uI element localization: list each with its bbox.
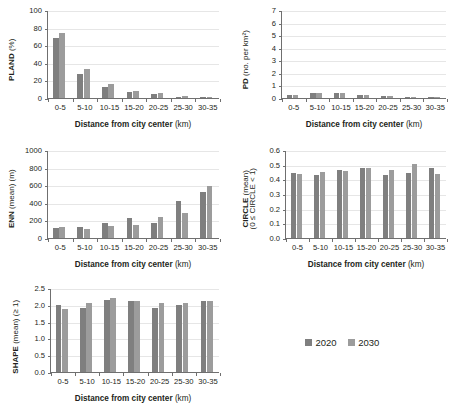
x-tick-label-25-30: 25-30 — [400, 104, 424, 112]
x-tick-label-30-35: 30-35 — [195, 104, 220, 112]
gridline — [282, 49, 446, 50]
x-tick-mark — [122, 239, 123, 242]
x-tick-mark — [146, 239, 147, 242]
bar-shape-0-5-2030 — [62, 309, 68, 372]
x-tick-mark — [172, 373, 173, 376]
x-tick-mark — [353, 99, 354, 102]
bar-circle-5-10-2030 — [320, 172, 325, 238]
x-tick-label-15-20: 15-20 — [353, 104, 377, 112]
legend-label-2030: 2030 — [358, 338, 379, 348]
pd-x-axis-label: Distance from city center (km) — [274, 120, 454, 129]
y-tick-label: 0 — [14, 235, 42, 243]
y-tick-label: 0.1 — [252, 220, 280, 228]
y-tick-label: 0.5 — [252, 162, 280, 170]
bar-enn-15-20-2020 — [127, 218, 133, 238]
pland-x-axis-label-unit: (km) — [175, 120, 191, 129]
y-tick-label: 1 — [248, 82, 276, 90]
x-tick-label-10-15: 10-15 — [99, 378, 123, 386]
gridline — [48, 221, 219, 222]
pd-x-axis-label-unit: (km) — [406, 120, 422, 129]
gridline — [48, 11, 219, 12]
y-tick-mark — [283, 224, 286, 225]
bar-pland-25-30-2030 — [182, 96, 188, 98]
bar-shape-10-15-2030 — [110, 298, 116, 372]
y-tick-label: 1.0 — [17, 335, 45, 343]
x-tick-mark — [306, 99, 307, 102]
y-tick-label: 3 — [248, 57, 276, 65]
x-tick-mark — [99, 373, 100, 376]
circle-x-axis-label: Distance from city center (km) — [276, 260, 456, 269]
bar-enn-0-5-2020 — [53, 228, 59, 238]
x-tick-label-30-35: 30-35 — [196, 378, 220, 386]
pland-plot-area: 0204060801000-55-1010-1515-2020-2525-303… — [47, 11, 219, 99]
x-tick-label-20-25: 20-25 — [148, 378, 172, 386]
x-tick-label-25-30: 25-30 — [172, 378, 196, 386]
x-tick-label-20-25: 20-25 — [146, 244, 171, 252]
y-tick-mark — [48, 339, 51, 340]
y-tick-mark — [48, 289, 51, 290]
y-tick-mark — [283, 151, 286, 152]
bar-shape-25-30-2020 — [176, 305, 182, 372]
bar-pland-15-20-2020 — [127, 92, 133, 98]
multi-panel-bar-chart-figure: PLAND (%) 0204060801000-55-1010-1515-202… — [0, 0, 459, 415]
x-tick-mark — [196, 373, 197, 376]
bar-shape-20-25-2020 — [152, 308, 158, 372]
y-tick-label: 20 — [14, 77, 42, 85]
bar-enn-5-10-2020 — [77, 227, 83, 238]
legend-entry-2030[interactable]: 2030 — [348, 338, 380, 348]
x-tick-mark — [376, 99, 377, 102]
x-tick-mark — [195, 239, 196, 242]
x-tick-label-20-25: 20-25 — [376, 104, 400, 112]
bar-pd-20-25-2030 — [387, 96, 393, 98]
x-tick-mark — [329, 99, 330, 102]
bar-pd-15-20-2020 — [357, 95, 363, 98]
pd-x-axis-label-bold: Distance from city center — [306, 120, 404, 129]
y-tick-mark — [279, 36, 282, 37]
y-tick-label: 0 — [14, 95, 42, 103]
x-tick-mark — [447, 99, 448, 102]
x-tick-mark — [378, 239, 379, 242]
bar-circle-30-35-2030 — [435, 174, 440, 238]
y-tick-mark — [45, 186, 48, 187]
pd-plot-area: 012345670-55-1010-1515-2020-2525-3030-35 — [281, 11, 446, 99]
x-tick-mark — [282, 99, 283, 102]
gridline — [48, 204, 219, 205]
bar-pd-30-35-2020 — [428, 97, 434, 98]
y-tick-label: 80 — [14, 25, 42, 33]
x-tick-label-30-35: 30-35 — [423, 104, 447, 112]
bar-enn-20-25-2020 — [151, 223, 157, 238]
bar-shape-0-5-2020 — [56, 305, 62, 372]
circle-x-axis-label-bold: Distance from city center — [308, 260, 406, 269]
pland-x-axis-label: Distance from city center (km) — [40, 120, 226, 129]
x-tick-mark — [355, 239, 356, 242]
shape-plot-area: 0.00.51.01.52.02.50-55-1010-1515-2020-25… — [50, 289, 219, 373]
y-tick-label: 800 — [14, 165, 42, 173]
y-tick-mark — [279, 11, 282, 12]
x-tick-mark — [48, 99, 49, 102]
panel-enn: ENN (mean) (m) 020040060080010000-55-101… — [0, 140, 232, 280]
bar-pland-15-20-2030 — [133, 91, 139, 98]
legend-swatch-2030-icon — [348, 339, 355, 346]
bar-pd-5-10-2030 — [316, 93, 322, 98]
x-tick-mark — [97, 239, 98, 242]
bar-circle-25-30-2030 — [412, 164, 417, 238]
shape-x-axis-label-bold: Distance from city center — [75, 394, 173, 403]
y-tick-label: 60 — [14, 42, 42, 50]
x-tick-label-15-20: 15-20 — [122, 104, 147, 112]
x-tick-mark — [122, 99, 123, 102]
panel-shape: SHAPE (mean) (≥ 1) 0.00.51.01.52.02.50-5… — [0, 280, 232, 415]
x-tick-label-25-30: 25-30 — [171, 104, 196, 112]
y-tick-mark — [48, 323, 51, 324]
bar-enn-25-30-2030 — [182, 213, 188, 238]
y-tick-label: 200 — [14, 217, 42, 225]
bar-circle-5-10-2020 — [314, 175, 319, 238]
bar-enn-30-35-2020 — [200, 192, 206, 238]
enn-x-axis-label-bold: Distance from city center — [75, 260, 173, 269]
x-tick-mark — [73, 99, 74, 102]
x-tick-label-5-10: 5-10 — [309, 244, 332, 252]
bar-enn-30-35-2030 — [207, 186, 213, 238]
legend-entry-2020[interactable]: 2020 — [305, 338, 337, 348]
bar-shape-15-20-2020 — [128, 301, 134, 372]
bar-shape-30-35-2030 — [207, 301, 213, 372]
bar-circle-20-25-2020 — [383, 175, 388, 238]
